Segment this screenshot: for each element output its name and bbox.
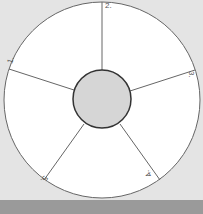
segment-wheel: 2. 3. 4. 5. 1. bbox=[0, 0, 203, 214]
hub-circle bbox=[73, 70, 131, 128]
bottom-band bbox=[0, 200, 203, 214]
segment-label-2: 2. bbox=[105, 1, 112, 10]
segment-label-3: 3. bbox=[187, 71, 196, 78]
